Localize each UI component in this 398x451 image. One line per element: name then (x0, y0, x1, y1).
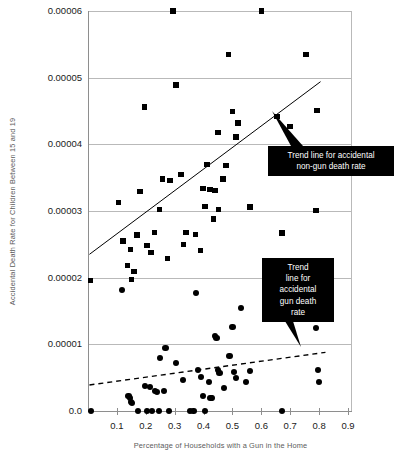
data-point (221, 385, 227, 391)
data-point (154, 389, 160, 395)
data-point (134, 232, 140, 238)
data-point (303, 52, 309, 58)
callout-line: non-gun death rate (274, 161, 388, 172)
data-point (160, 176, 166, 182)
data-point (183, 230, 189, 236)
y-axis-tick-label: 0.00003 (48, 205, 82, 216)
y-axis-tick-label: 0.00004 (48, 138, 82, 149)
x-axis-tick-mark (319, 408, 320, 415)
data-point (195, 367, 201, 373)
data-point (180, 377, 186, 383)
data-point (119, 287, 125, 293)
data-point (259, 8, 265, 14)
data-point (223, 163, 229, 169)
scatter-chart: Accidental Death Rate for Children Betwe… (0, 0, 398, 451)
data-point (216, 207, 222, 213)
data-point (233, 375, 239, 381)
x-axis-tick-mark (117, 408, 118, 415)
data-point (279, 230, 285, 236)
data-point (165, 256, 171, 262)
data-point (226, 52, 232, 58)
y-axis-line (88, 11, 89, 412)
x-axis-tick-label: 0.9 (333, 420, 363, 431)
data-point (209, 395, 215, 401)
data-point (193, 290, 199, 296)
y-axis-tick-label: 0.00005 (48, 72, 82, 83)
plot-right-border (351, 11, 352, 412)
data-point (287, 124, 293, 130)
data-point (178, 172, 184, 178)
data-point (315, 367, 321, 373)
gridline (88, 78, 352, 79)
y-axis-tick-label: 0.0 (69, 405, 82, 416)
x-axis-tick-label: 0.6 (246, 420, 276, 431)
data-point (162, 345, 168, 351)
data-point (137, 189, 143, 195)
data-point (226, 353, 232, 359)
x-axis-tick-mark (175, 408, 176, 415)
data-point (135, 408, 141, 414)
data-point (142, 104, 148, 110)
x-axis-line (88, 411, 352, 412)
data-point (313, 325, 319, 331)
data-point (161, 388, 167, 394)
x-axis-tick-mark (290, 408, 291, 415)
x-axis-tick-mark (232, 408, 233, 415)
data-point (149, 408, 155, 414)
x-axis-tick-label: 0.3 (160, 420, 190, 431)
data-point (238, 305, 244, 311)
data-point (206, 379, 212, 385)
data-point (247, 204, 253, 210)
data-point (212, 188, 218, 194)
data-point (220, 176, 226, 182)
data-point (204, 162, 210, 168)
data-point (152, 230, 158, 236)
data-point (316, 379, 322, 385)
data-point (229, 324, 235, 330)
gridline (88, 344, 352, 345)
data-point (157, 207, 163, 213)
data-point (200, 393, 206, 399)
x-axis-tick-label: 0.4 (189, 420, 219, 431)
x-axis-tick-label: 0.2 (131, 420, 161, 431)
data-point (235, 120, 241, 126)
data-point (181, 242, 187, 248)
x-axis-tick-label: 0.1 (102, 420, 132, 431)
x-axis-title: Percentage of Households with a Gun in t… (88, 441, 353, 450)
callout-line: gun death (268, 296, 328, 307)
data-point (144, 243, 150, 249)
data-point (198, 374, 204, 380)
data-point (233, 134, 239, 140)
data-point (88, 408, 94, 414)
data-point (202, 204, 208, 210)
data-point (202, 408, 208, 414)
data-point (230, 109, 236, 115)
y-axis-tick-label: 0.00006 (48, 5, 82, 16)
data-point (170, 8, 176, 14)
data-point (131, 269, 137, 275)
data-point (156, 408, 162, 414)
data-point (116, 200, 122, 206)
data-point (173, 82, 179, 88)
data-point (129, 277, 135, 283)
y-axis-tick-label: 0.00001 (48, 338, 82, 349)
data-point (120, 238, 126, 244)
data-point (314, 108, 320, 114)
data-point (313, 208, 319, 214)
plot-area (88, 11, 352, 412)
y-axis-title: Accidental Death Rate for Children Betwe… (8, 52, 17, 372)
callout-line: line for (268, 273, 328, 284)
x-axis-tick-label: 0.8 (304, 420, 334, 431)
x-axis-tick-mark (261, 408, 262, 415)
data-point (128, 247, 134, 253)
x-axis-tick-mark (348, 408, 349, 415)
callout-line: rate (268, 307, 328, 318)
data-point (166, 408, 172, 414)
data-point (247, 368, 253, 374)
data-point (88, 278, 94, 284)
data-point (279, 408, 285, 414)
gridline (88, 11, 352, 12)
callout-line: Trend line for accidental (274, 150, 388, 161)
data-point (129, 400, 135, 406)
callout-line: Trend (268, 262, 328, 273)
